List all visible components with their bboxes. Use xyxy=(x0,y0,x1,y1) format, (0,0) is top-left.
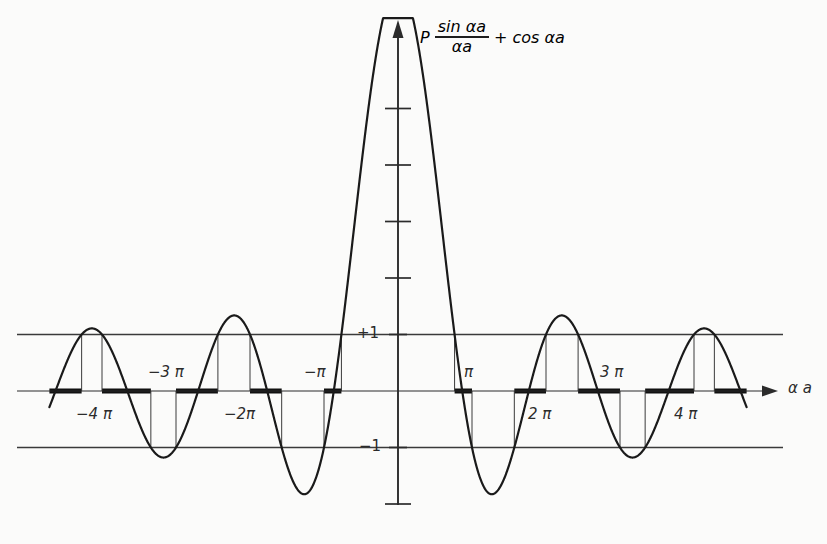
plot-background xyxy=(0,0,827,544)
x-tick-label-4: π xyxy=(464,363,473,381)
x-tick-label-7: 4 π xyxy=(674,405,697,423)
x-tick-label-3: −π xyxy=(304,363,326,381)
title-fraction-denominator: αa xyxy=(449,38,475,56)
title-p-symbol: P xyxy=(420,28,430,47)
x-axis-label: α a xyxy=(788,379,812,397)
x-tick-label-1: −3 π xyxy=(148,363,184,381)
y-tick-label-plus-one: +1 xyxy=(357,324,379,342)
kronig-penney-figure: P sin αa αa + cos αa +1−1−4 π−3 π−2π−ππ2… xyxy=(0,0,827,544)
title-fraction: sin αa αa xyxy=(435,18,489,56)
x-tick-label-5: 2 π xyxy=(528,405,551,423)
x-tick-label-2: −2π xyxy=(224,405,255,423)
y-tick-label-minus-one: −1 xyxy=(359,437,381,455)
x-tick-label-0: −4 π xyxy=(76,405,112,423)
title-cos-term: cos αa xyxy=(512,28,564,47)
plot-svg xyxy=(0,0,827,544)
title-plus-sign: + xyxy=(494,28,507,47)
title-formula: P sin αa αa + cos αa xyxy=(420,18,565,56)
x-tick-label-6: 3 π xyxy=(600,363,623,381)
title-fraction-numerator: sin αa xyxy=(435,18,489,36)
